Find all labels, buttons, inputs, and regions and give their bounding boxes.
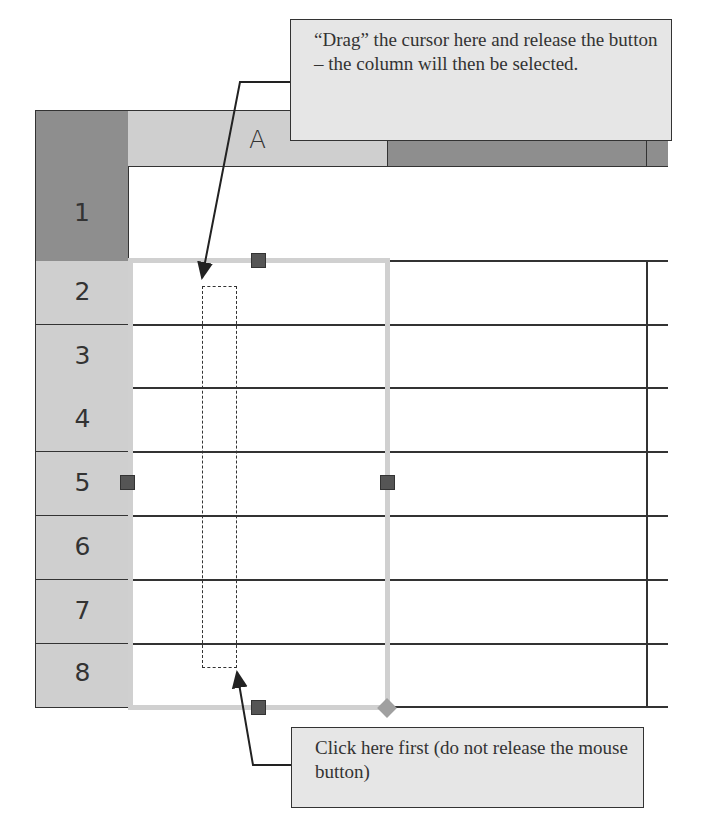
callout-drag: “Drag” the cursor here and release the b…	[290, 19, 672, 141]
arrow-to-click-target	[237, 672, 292, 765]
callout-drag-text: “Drag” the cursor here and release the b…	[314, 29, 657, 74]
callout-click: Click here first (do not release the mou…	[291, 727, 644, 808]
callout-click-text: Click here first (do not release the mou…	[315, 737, 628, 782]
arrow-to-drag-target	[202, 82, 292, 278]
